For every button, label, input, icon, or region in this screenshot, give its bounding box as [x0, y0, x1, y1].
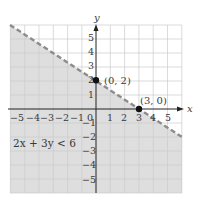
x-tick: 1 [107, 113, 113, 123]
x-tick: −3 [40, 113, 54, 123]
graph-canvas [0, 0, 200, 205]
y-tick: −5 [82, 175, 96, 185]
x-tick: 3 [136, 113, 142, 123]
y-tick: 1 [88, 90, 94, 100]
y-tick: 3 [88, 61, 94, 71]
y-tick: −2 [82, 132, 96, 142]
y-axis-label: y [94, 13, 100, 23]
x-tick: −4 [26, 113, 40, 123]
y-tick: −1 [82, 118, 96, 128]
y-tick: 2 [88, 75, 94, 85]
inequality-label: 2x + 3y < 6 [13, 138, 76, 149]
x-axis-label: x [187, 104, 193, 114]
point-label-3-0: (3, 0) [140, 96, 167, 106]
point-label-0-2: (0, 2) [104, 76, 131, 86]
y-tick: −4 [82, 160, 96, 170]
x-tick: 5 [165, 113, 171, 123]
x-axis-arrow-icon [177, 107, 184, 112]
y-tick: −3 [82, 146, 96, 156]
x-tick: −2 [55, 113, 69, 123]
y-tick: 4 [88, 47, 94, 57]
x-tick: 2 [121, 113, 127, 123]
x-tick: 4 [150, 113, 156, 123]
x-tick: −5 [10, 113, 24, 123]
y-tick: 5 [88, 33, 94, 43]
